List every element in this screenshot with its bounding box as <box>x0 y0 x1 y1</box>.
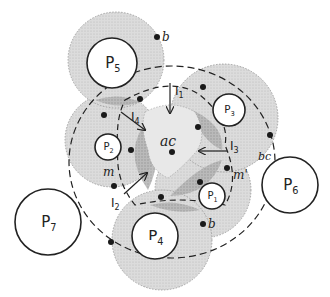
dot-p2-right <box>128 147 134 153</box>
dot-p4-left <box>108 239 114 245</box>
dot-p1-left <box>197 179 203 185</box>
diagram-canvas: P1P2P3P4P5P6P7 ac bc b b m m' I1 I2 I3 I… <box>0 0 330 297</box>
processor-p6: P6 <box>262 157 318 213</box>
label-ac: ac <box>160 133 176 149</box>
processor-p7: P7 <box>15 189 81 255</box>
label-m: m <box>103 165 114 179</box>
dot-lower-center <box>158 194 164 200</box>
processor-p1: P1 <box>199 183 225 209</box>
dot-p3-right <box>267 132 273 138</box>
dot-top-right <box>200 84 206 90</box>
dot-left-upper <box>101 112 107 118</box>
processor-p3: P3 <box>213 94 245 126</box>
label-bc: bc <box>258 150 271 163</box>
label-b-top: b <box>162 30 170 44</box>
dot-m-prime <box>224 165 230 171</box>
dot-upper-left <box>137 96 143 102</box>
processor-p5: P5 <box>87 38 137 88</box>
processor-p4: P4 <box>132 213 178 259</box>
ac-dot <box>169 149 175 155</box>
dot-m <box>111 183 117 189</box>
dot-b-bottom <box>200 221 206 227</box>
processor-p2: P2 <box>95 134 121 160</box>
label-m-prime: m' <box>233 168 248 182</box>
dot-p3-left <box>195 124 201 130</box>
label-I2: I2 <box>111 196 120 212</box>
b-top-dot <box>154 34 160 40</box>
label-b-bottom: b <box>208 217 216 231</box>
